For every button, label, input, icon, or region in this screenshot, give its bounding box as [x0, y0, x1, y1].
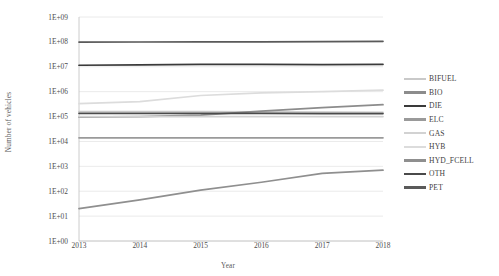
line-chart: Number of vehicles 1E+091E+081E+071E+061… — [0, 0, 499, 276]
x-axis-tick-labels: 201320142015201620172018 — [0, 241, 499, 257]
legend-item-hyd_fcell[interactable]: HYD_FCELL — [404, 154, 499, 168]
legend-swatch-pet — [404, 186, 426, 188]
legend-label: DIE — [429, 101, 442, 110]
legend-label: PET — [429, 183, 443, 192]
x-axis-tick-label: 2017 — [302, 241, 342, 250]
legend-label: OTH — [429, 169, 445, 178]
legend-item-pet[interactable]: PET — [404, 181, 499, 195]
x-axis-tick-label: 2014 — [120, 241, 160, 250]
x-axis-tick-label: 2016 — [241, 241, 281, 250]
series-line-die — [79, 64, 383, 65]
legend-item-gas[interactable]: GAS — [404, 126, 499, 140]
legend-label: ELC — [429, 115, 444, 124]
legend-item-bio[interactable]: BIO — [404, 86, 499, 100]
chart-legend: BIFUELBIODIEELCGASHYBHYD_FCELLOTHPET — [404, 72, 499, 194]
x-axis-tick-label: 2013 — [59, 241, 99, 250]
legend-label: HYD_FCELL — [429, 156, 474, 165]
legend-swatch-gas — [404, 132, 426, 134]
series-line-bifuel — [79, 111, 383, 112]
legend-swatch-bio — [404, 91, 426, 93]
legend-item-elc[interactable]: ELC — [404, 113, 499, 127]
legend-swatch-oth — [404, 173, 426, 175]
legend-swatch-die — [404, 105, 426, 107]
series-line-pet — [79, 41, 383, 42]
legend-swatch-bifuel — [404, 78, 426, 80]
legend-swatch-hyd_fcell — [404, 159, 426, 161]
legend-item-hyb[interactable]: HYB — [404, 140, 499, 154]
legend-item-bifuel[interactable]: BIFUEL — [404, 72, 499, 86]
legend-label: BIFUEL — [429, 74, 456, 83]
series-line-hyb — [79, 90, 383, 103]
axis-lines — [79, 17, 383, 241]
x-axis-tick-label: 2018 — [363, 241, 403, 250]
x-axis-title: Year — [198, 262, 258, 270]
series-line-hyd_fcell — [79, 170, 383, 208]
legend-label: HYB — [429, 142, 445, 151]
x-axis-tick-label: 2015 — [181, 241, 221, 250]
legend-label: GAS — [429, 129, 445, 138]
legend-label: BIO — [429, 88, 443, 97]
legend-swatch-hyb — [404, 146, 426, 148]
legend-item-die[interactable]: DIE — [404, 99, 499, 113]
gridlines — [79, 17, 383, 241]
legend-swatch-elc — [404, 118, 426, 120]
legend-item-oth[interactable]: OTH — [404, 167, 499, 181]
